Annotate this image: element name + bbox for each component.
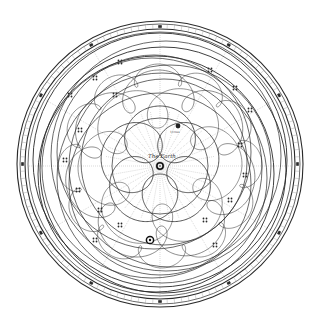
degree-tick: [131, 27, 132, 32]
star-icon: [118, 226, 120, 228]
star-icon: [81, 131, 83, 133]
degree-tick: [286, 212, 291, 214]
degree-tick: [78, 273, 81, 277]
star-icon: [211, 71, 213, 73]
degree-tick: [43, 88, 47, 91]
degree-tick: [283, 219, 288, 221]
star-icon: [236, 86, 238, 88]
star-icon: [121, 63, 123, 65]
degree-tick: [280, 225, 284, 227]
degree-tick: [22, 185, 27, 186]
degree-tick: [239, 51, 242, 55]
star-icon: [66, 161, 68, 163]
degree-tick: [245, 55, 248, 59]
degree-tick: [27, 206, 32, 208]
degree-tick: [221, 39, 223, 43]
degree-tick: [21, 149, 26, 150]
degree-tick: [215, 36, 217, 41]
sun-core: [149, 239, 151, 241]
degree-tick: [72, 269, 75, 273]
degree-tick: [195, 294, 196, 299]
degree-tick: [221, 284, 223, 288]
star-icon: [211, 68, 213, 70]
star-icon: [243, 173, 245, 175]
star-icon: [63, 158, 65, 160]
degree-tick: [131, 296, 132, 301]
degree-tick: [25, 128, 30, 129]
degree-tick: [273, 238, 277, 241]
degree-tick: [269, 243, 273, 246]
star-icon: [251, 111, 253, 113]
star-icon: [246, 176, 248, 178]
degree-tick: [260, 254, 264, 257]
radial-line: [160, 52, 226, 166]
degree-tick: [47, 82, 51, 85]
degree-tick: [283, 107, 288, 109]
degree-tick: [110, 290, 112, 295]
star-icon: [231, 201, 233, 203]
degree-tick: [145, 25, 146, 30]
degree-tick: [181, 26, 182, 31]
star-icon: [68, 93, 70, 95]
star-icon: [93, 238, 95, 240]
degree-tick: [56, 70, 60, 73]
star-icon: [206, 218, 208, 220]
star-icon: [241, 143, 243, 145]
star-icon: [248, 111, 250, 113]
degree-tick: [290, 128, 295, 129]
star-icon: [241, 146, 243, 148]
star-icon: [98, 208, 100, 210]
degree-tick: [286, 114, 291, 116]
degree-tick: [56, 254, 60, 257]
degree-tick: [61, 259, 65, 263]
degree-tick: [265, 76, 269, 79]
star-icon: [246, 173, 248, 175]
star-icon: [238, 146, 240, 148]
star-icon: [93, 241, 95, 243]
star-icon: [71, 93, 73, 95]
star-icon: [233, 86, 235, 88]
degree-tick: [181, 297, 182, 302]
degree-tick: [27, 121, 32, 123]
degree-tick: [234, 47, 237, 51]
degree-tick: [61, 65, 65, 69]
planet-icon: [176, 124, 181, 129]
degree-tick: [51, 76, 55, 79]
degree-tick: [265, 249, 269, 252]
degree-tick: [294, 178, 299, 179]
star-icon: [118, 60, 120, 62]
degree-tick: [195, 29, 196, 34]
star-icon: [78, 128, 80, 130]
degree-tick: [110, 33, 112, 38]
star-icon: [208, 68, 210, 70]
sun-marker: [146, 236, 153, 243]
star-icon: [228, 201, 230, 203]
star-icon: [116, 93, 118, 95]
degree-tick: [21, 178, 26, 179]
star-icon: [76, 191, 78, 193]
degree-tick: [239, 273, 242, 277]
star-icon: [233, 89, 235, 91]
degree-tick: [22, 142, 27, 143]
star-icon: [96, 79, 98, 81]
degree-tick: [208, 290, 210, 295]
degree-tick: [250, 60, 253, 64]
degree-tick: [32, 107, 37, 109]
degree-tick: [174, 298, 175, 303]
degree-tick: [290, 199, 295, 200]
degree-tick: [35, 225, 39, 227]
degree-tick: [103, 287, 105, 292]
star-icon: [96, 238, 98, 240]
degree-tick: [84, 47, 87, 51]
star-icon: [208, 71, 210, 73]
degree-tick: [103, 36, 105, 41]
star-icon: [113, 96, 115, 98]
star-icon: [213, 246, 215, 248]
degree-tick: [208, 33, 210, 38]
star-icon: [243, 176, 245, 178]
star-icon: [93, 79, 95, 81]
orbit-circle: [57, 55, 251, 249]
degree-tick: [23, 135, 28, 136]
star-icon: [216, 243, 218, 245]
degree-tick: [29, 114, 34, 116]
